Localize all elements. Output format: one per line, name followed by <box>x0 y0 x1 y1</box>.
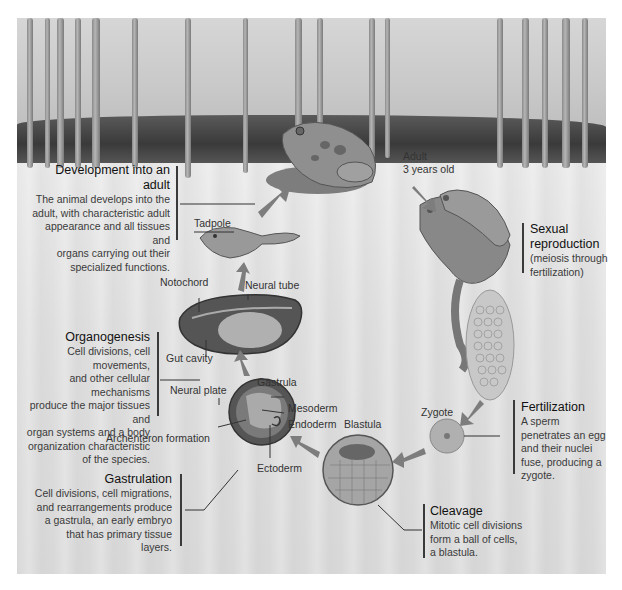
organogenesis-line-4: organ systems and a body <box>12 426 150 440</box>
organogenesis-line-5: organization characteristic <box>12 440 150 454</box>
cleavage-process: Cleavage Mitotic cell divisions form a b… <box>430 504 550 560</box>
gastrulation-line-4: that has primary tissue <box>20 528 172 542</box>
sexual-reproduction-title-2: reproduction <box>530 237 620 252</box>
endoderm-label: Endoderm <box>288 418 336 431</box>
cleavage-line-1: Mitotic cell divisions <box>430 519 550 533</box>
sexual-reproduction-process: Sexual reproduction (meiosis through fer… <box>530 222 620 279</box>
adult-label: Adult 3 years old <box>403 150 454 176</box>
ectoderm-label: Ectoderm <box>257 462 302 475</box>
gastrulation-line-3: a gastrula, an early embryo <box>20 514 172 528</box>
blastula-illustration <box>323 435 393 505</box>
fertilization-line-4: fuse, producing a <box>521 456 621 470</box>
fertilization-title: Fertilization <box>521 400 621 415</box>
gut-cavity-label: Gut cavity <box>166 352 213 365</box>
neural-plate-label: Neural plate <box>170 384 227 397</box>
development-line-2: adult, with characteristic adult <box>30 207 170 221</box>
development-line-4: organs carrying out their <box>30 247 170 261</box>
gastrula-label: Gastrula <box>257 376 297 389</box>
blastula-label: Blastula <box>344 418 381 431</box>
development-line-5: specialized functions. <box>30 261 170 275</box>
zygote-label: Zygote <box>421 406 453 419</box>
development-line-3: appearance and all tissues and <box>30 220 170 247</box>
development-process: Development into an adult The animal dev… <box>30 163 170 274</box>
mesoderm-label: Mesoderm <box>288 402 338 415</box>
development-line-1: The animal develops into the <box>30 193 170 207</box>
adult-stage-name: Adult <box>403 150 454 163</box>
adult-age: 3 years old <box>403 163 454 176</box>
cleavage-line-2: form a ball of cells, <box>430 533 550 547</box>
tadpole-label: Tadpole <box>194 217 231 230</box>
sexual-reproduction-bracket <box>522 223 524 273</box>
cleavage-title: Cleavage <box>430 504 550 519</box>
gastrulation-process: Gastrulation Cell divisions, cell migrat… <box>20 472 172 555</box>
notochord-label: Notochord <box>160 276 208 289</box>
fertilization-line-3: and their nuclei <box>521 442 621 456</box>
gastrulation-line-2: and rearrangements produce <box>20 501 172 515</box>
gastrulation-line-1: Cell divisions, cell migrations, <box>20 487 172 501</box>
development-title: Development into an adult <box>30 163 170 193</box>
sexual-reproduction-title-1: Sexual <box>530 222 620 237</box>
cleavage-line-3: a blastula. <box>430 546 550 560</box>
gastrulation-title: Gastrulation <box>20 472 172 487</box>
development-bracket <box>176 166 178 240</box>
egg-mass-illustration <box>466 290 514 400</box>
sexual-reproduction-line-1: (meiosis through <box>530 252 620 266</box>
gastrulation-line-5: layers. <box>20 541 172 555</box>
sexual-reproduction-line-2: fertilization) <box>530 266 620 280</box>
neural-tube-label: Neural tube <box>245 279 299 292</box>
fertilization-bracket <box>513 400 515 474</box>
organogenesis-process: Organogenesis Cell divisions, cell movem… <box>12 330 150 467</box>
fertilization-line-1: A sperm <box>521 415 621 429</box>
organogenesis-title: Organogenesis <box>12 330 150 345</box>
organogenesis-line-2: and other cellular mechanisms <box>12 372 150 399</box>
organogenesis-bracket <box>157 332 159 416</box>
organogenesis-line-3: produce the major tissues and <box>12 399 150 426</box>
fertilization-line-2: penetrates an egg <box>521 429 621 443</box>
organogenesis-line-1: Cell divisions, cell movements, <box>12 345 150 372</box>
fertilization-line-5: zygote. <box>521 469 621 483</box>
zygote-illustration <box>430 419 464 453</box>
organogenesis-line-6: of the species. <box>12 453 150 467</box>
gastrulation-bracket <box>180 474 182 546</box>
neurula-illustration <box>179 295 301 354</box>
fertilization-process: Fertilization A sperm penetrates an egg … <box>521 400 621 483</box>
cleavage-bracket <box>423 504 425 558</box>
